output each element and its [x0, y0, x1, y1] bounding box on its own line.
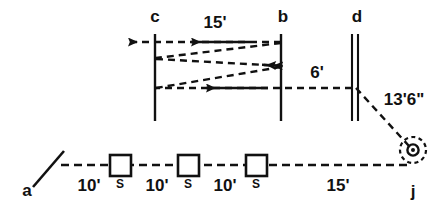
dimension-label-leg-1: 10' [78, 176, 101, 195]
station-j-symbol [400, 137, 426, 163]
station-j-center-dot [411, 148, 415, 152]
sight-path-diagonal-b-to-c-upper [156, 43, 281, 58]
square-station-label-3: S [252, 177, 260, 191]
dimension-label-top-run: 15' [204, 13, 227, 32]
sight-path-group [128, 42, 409, 146]
node-label-d: d [352, 7, 362, 26]
diagram-canvas: c b d a j 15' 6' 13'6" 10' 10' 10' 15' S… [0, 0, 442, 202]
sight-path-diagonal-c-to-b-second-arrow [262, 65, 276, 66]
dimension-label-leg-2: 10' [146, 176, 169, 195]
node-label-j: j [410, 182, 416, 201]
square-station-3 [246, 155, 267, 176]
surveying-diagram: c b d a j 15' 6' 13'6" 10' 10' 10' 15' S… [0, 0, 442, 202]
station-a-tick [33, 151, 64, 187]
dimension-label-leg-4: 15' [327, 176, 350, 195]
square-station-1 [110, 155, 131, 176]
square-station-label-2: S [184, 177, 192, 191]
node-label-b: b [278, 7, 288, 26]
sight-path-diagonal-b-to-c-lower [156, 67, 281, 88]
dimension-label-mid-run: 6' [310, 63, 324, 82]
square-station-2 [178, 155, 199, 176]
node-labels: c b d a j [22, 7, 415, 201]
square-station-labels: S S S [116, 177, 260, 191]
node-label-a: a [22, 181, 32, 200]
square-station-label-1: S [116, 177, 124, 191]
dimension-label-leg-3: 10' [214, 176, 237, 195]
dimension-label-slope-run: 13'6" [384, 90, 424, 109]
vertical-line-d-double [352, 34, 358, 121]
node-label-c: c [150, 7, 159, 26]
